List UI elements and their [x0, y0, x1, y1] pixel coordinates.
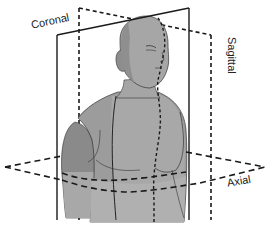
anatomical-planes-diagram [0, 0, 272, 227]
sagittal-label: Sagittal [226, 37, 238, 74]
